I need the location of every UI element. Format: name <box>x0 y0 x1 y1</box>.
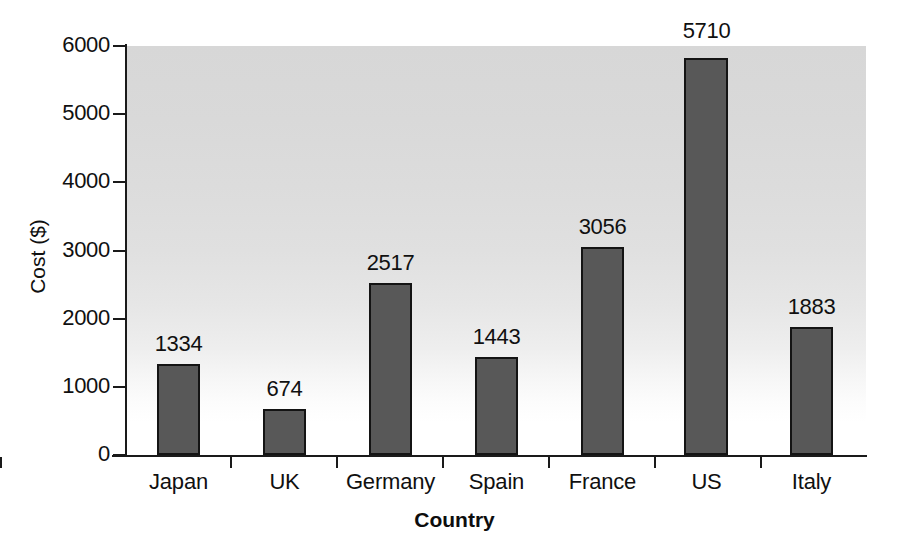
y-tick-label-5000: 5000 <box>6 102 110 124</box>
x-tick-2 <box>336 457 338 468</box>
x-tick-5 <box>654 457 656 468</box>
value-label-germany: 2517 <box>340 252 441 274</box>
y-tick-label-4000: 4000 <box>6 170 110 192</box>
value-label-japan: 1334 <box>128 333 229 355</box>
value-label-uk: 674 <box>234 378 335 400</box>
y-tick-6000 <box>113 45 126 47</box>
category-label-spain: Spain <box>446 470 547 494</box>
y-tick-3000 <box>113 250 126 252</box>
x-tick-6 <box>760 457 762 468</box>
bar-japan <box>157 364 200 455</box>
bar-italy <box>790 327 833 455</box>
x-tick-1 <box>230 457 232 468</box>
category-label-italy: Italy <box>761 470 862 494</box>
y-tick-2000 <box>113 318 126 320</box>
y-tick-label-2000: 2000 <box>6 307 110 329</box>
bar-germany <box>369 283 412 455</box>
value-label-france: 3056 <box>552 216 653 238</box>
x-tick-3 <box>442 457 444 468</box>
y-tick-5000 <box>113 113 126 115</box>
y-tick-label-3000: 3000 <box>6 239 110 261</box>
x-axis-line <box>112 455 867 457</box>
y-tick-4000 <box>113 181 126 183</box>
category-label-germany: Germany <box>340 470 441 494</box>
bar-france <box>581 247 624 455</box>
value-label-italy: 1883 <box>761 296 862 318</box>
y-axis-title: Cost ($) <box>27 187 48 327</box>
y-tick-0 <box>113 454 126 456</box>
bar-uk <box>263 409 306 455</box>
x-axis-title: Country <box>0 509 909 531</box>
y-tick-label-0: 0 <box>6 443 110 465</box>
x-tick-4 <box>548 457 550 468</box>
bar-chart: 6000 5000 4000 3000 2000 1000 0 Cost ($)… <box>0 0 909 557</box>
y-tick-label-6000: 6000 <box>6 34 110 56</box>
category-label-uk: UK <box>234 470 335 494</box>
y-tick-label-1000: 1000 <box>6 375 110 397</box>
bar-us <box>684 58 728 455</box>
category-label-us: US <box>656 470 757 494</box>
value-label-spain: 1443 <box>446 326 547 348</box>
bar-spain <box>475 357 518 455</box>
category-label-japan: Japan <box>128 470 229 494</box>
value-label-us: 5710 <box>656 20 757 42</box>
y-tick-1000 <box>113 386 126 388</box>
category-label-france: France <box>552 470 653 494</box>
